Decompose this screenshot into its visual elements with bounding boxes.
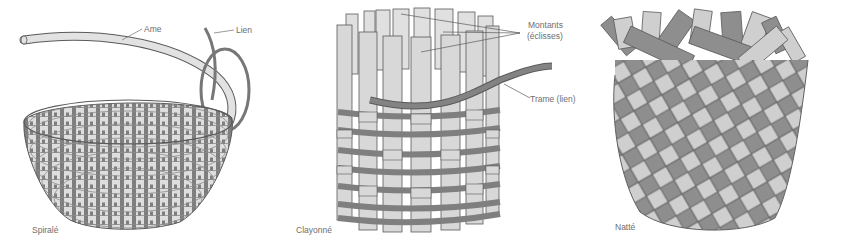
callout-ame: Ame (144, 24, 161, 34)
caption-clayonne: Clayonné (296, 225, 332, 235)
caption-spirale: Spiralé (32, 225, 58, 235)
panel-clayonne: Montants (éclisses) Trame (lien) Clayonn… (280, 0, 570, 249)
callout-trame: Trame (lien) (530, 94, 576, 104)
panel-natte: Natté (570, 0, 856, 249)
caption-natte: Natté (615, 222, 635, 232)
spiral-basket-illustration (0, 0, 280, 249)
callout-lien: Lien (236, 25, 252, 35)
panel-spirale: Ame Lien Spiralé (0, 0, 280, 249)
callout-montants: Montants (528, 20, 563, 30)
callout-montants-sub: (éclisses) (527, 31, 563, 41)
plaited-basket-illustration (570, 0, 856, 249)
